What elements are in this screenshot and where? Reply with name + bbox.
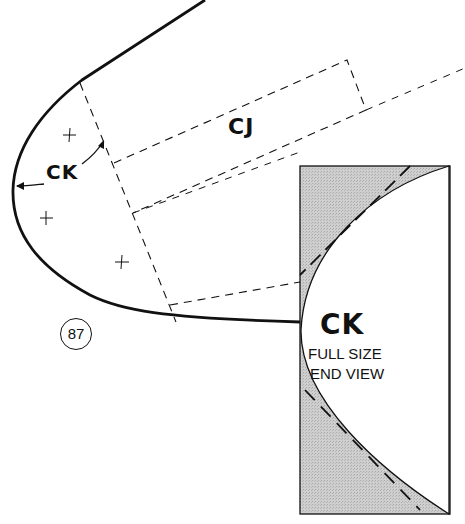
end-view-subtitle-line2: END VIEW	[310, 365, 384, 382]
pattern-drawing	[0, 0, 465, 524]
extension-line	[366, 68, 465, 110]
end-view-title: CK	[320, 308, 364, 341]
cj-label: CJ	[228, 114, 254, 139]
lower-outline	[170, 282, 300, 305]
end-view-subtitle-line1: FULL SIZE	[308, 345, 382, 362]
crosshair-icon	[40, 128, 129, 269]
arrowhead-left-icon	[16, 182, 24, 190]
lower-edge	[133, 152, 300, 213]
part-number-badge: 87	[60, 318, 92, 350]
ck-label: CK	[46, 160, 78, 184]
